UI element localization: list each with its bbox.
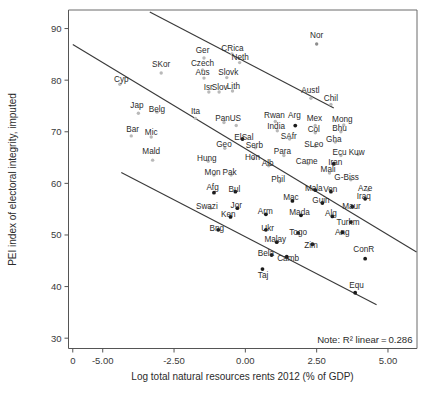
point-label: Togo bbox=[289, 228, 307, 237]
point-label: Bng bbox=[210, 224, 225, 233]
data-point bbox=[293, 124, 297, 128]
point-label: Maur bbox=[342, 202, 361, 211]
point-label: Slovk bbox=[218, 68, 239, 77]
point-label: Ven bbox=[323, 185, 338, 194]
point-label: Swazi bbox=[196, 202, 218, 211]
point-label: Neth bbox=[232, 53, 250, 62]
x-tick-label: 2.50 bbox=[307, 355, 326, 366]
point-label: Nor bbox=[310, 31, 323, 40]
point-label: Bela bbox=[258, 249, 275, 258]
point-label: Bul bbox=[229, 185, 241, 194]
point-label: Ecu bbox=[332, 148, 347, 157]
point-label: Cyp bbox=[114, 75, 129, 84]
point-label: Zim bbox=[304, 241, 318, 250]
r2-note: Note: R² linear = 0.286 bbox=[317, 334, 412, 345]
point-label: Bhu bbox=[332, 124, 347, 133]
point-label: Afg bbox=[206, 183, 219, 192]
point-label: Chil bbox=[324, 94, 338, 103]
point-label: Guin bbox=[312, 196, 330, 205]
x-tick-label: 0.00 bbox=[236, 355, 255, 366]
y-tick-label: 30 bbox=[51, 333, 62, 344]
point-label: Mong bbox=[332, 115, 353, 124]
point-label: Mex bbox=[307, 114, 322, 123]
point-label: ConR bbox=[353, 245, 374, 254]
point-label: US bbox=[230, 114, 242, 123]
chart-page: 304050607080900-5.00-2.500.002.505.00Log… bbox=[0, 0, 435, 396]
point-label: Taj bbox=[258, 271, 269, 280]
point-label: Arm bbox=[258, 207, 273, 216]
point-label: Pan bbox=[215, 114, 230, 123]
point-label: Serb bbox=[246, 141, 264, 150]
point-label: Para bbox=[274, 147, 292, 156]
point-label: CRica bbox=[221, 44, 244, 53]
data-point bbox=[194, 117, 197, 120]
point-label: Ken bbox=[221, 210, 236, 219]
point-label: Belg bbox=[149, 105, 166, 114]
point-label: SAfr bbox=[281, 132, 297, 141]
point-label: Arg bbox=[288, 111, 301, 120]
point-label: Ang bbox=[335, 228, 350, 237]
x-tick-label: 0 bbox=[70, 355, 75, 366]
data-point bbox=[235, 124, 238, 127]
point-label: G-Biss bbox=[334, 173, 359, 182]
data-point bbox=[315, 42, 318, 45]
point-label: Lith bbox=[227, 82, 241, 91]
point-label: India bbox=[267, 122, 285, 131]
point-label: Ger bbox=[196, 46, 210, 55]
data-point bbox=[353, 291, 357, 295]
point-label: Hung bbox=[197, 154, 217, 163]
fit-line-lower-confidence-line bbox=[121, 173, 376, 305]
point-label: Alg bbox=[325, 209, 337, 218]
x-axis-title: Log total natural resources rents 2012 (… bbox=[131, 371, 353, 382]
point-label: Pak bbox=[223, 168, 238, 177]
data-point bbox=[130, 134, 133, 137]
data-point bbox=[137, 111, 140, 114]
point-label: Mic bbox=[145, 128, 158, 137]
y-tick-label: 60 bbox=[51, 178, 62, 189]
point-label: Jor bbox=[231, 201, 243, 210]
data-point bbox=[151, 158, 154, 161]
x-tick-label: 5.00 bbox=[379, 355, 398, 366]
point-label: Hon bbox=[245, 153, 260, 162]
point-label: Camb bbox=[277, 254, 299, 263]
point-label: Turkm bbox=[337, 218, 360, 227]
y-tick-label: 40 bbox=[51, 281, 62, 292]
data-point bbox=[363, 257, 367, 261]
point-label: Jap bbox=[130, 101, 144, 110]
y-tick-label: 80 bbox=[51, 75, 62, 86]
y-tick-label: 50 bbox=[51, 229, 62, 240]
point-label: Mon bbox=[205, 168, 221, 177]
y-tick-label: 90 bbox=[51, 23, 62, 34]
point-label: Mac bbox=[283, 193, 298, 202]
point-label: Ita bbox=[191, 107, 201, 116]
y-axis-title: PEI index of electoral integrity, impute… bbox=[7, 93, 18, 266]
point-label: Came bbox=[296, 157, 318, 166]
point-label: SKor bbox=[152, 60, 170, 69]
point-label: Mald bbox=[142, 147, 160, 156]
point-label: Phil bbox=[271, 175, 285, 184]
data-point bbox=[309, 97, 312, 100]
point-label: Bar bbox=[126, 125, 139, 134]
point-label: Rwan bbox=[264, 111, 285, 120]
x-tick-label: -5.00 bbox=[92, 355, 114, 366]
point-label: Mala bbox=[305, 184, 323, 193]
point-label: Equ bbox=[349, 281, 364, 290]
point-label: Austl bbox=[301, 86, 319, 95]
x-tick-label: -2.50 bbox=[163, 355, 185, 366]
point-label: Czech bbox=[191, 59, 215, 68]
point-label: Kuw bbox=[349, 148, 365, 157]
point-label: Alb bbox=[262, 159, 274, 168]
y-tick-label: 70 bbox=[51, 126, 62, 137]
point-label: Ukr bbox=[261, 224, 274, 233]
data-point bbox=[160, 71, 163, 74]
point-label: Iraq bbox=[357, 192, 372, 201]
point-label: Col bbox=[308, 125, 320, 134]
point-label: Mada bbox=[289, 208, 310, 217]
scatter-plot: 304050607080900-5.00-2.500.002.505.00Log… bbox=[0, 0, 435, 396]
point-label: Gha bbox=[326, 135, 342, 144]
point-label: SLeo bbox=[304, 140, 324, 149]
point-label: Malay bbox=[264, 235, 287, 244]
data-point bbox=[329, 103, 332, 106]
point-label: Aus bbox=[196, 68, 210, 77]
point-label: Geo bbox=[216, 140, 232, 149]
